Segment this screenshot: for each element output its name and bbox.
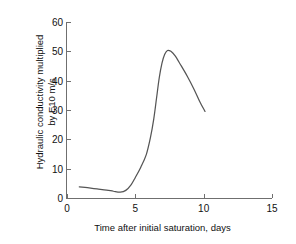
- chart-figure: Hydraulic conductivity multiplied by E10…: [0, 0, 296, 244]
- x-axis-line: [66, 198, 272, 199]
- plot-area: 0102030405060 051015: [67, 22, 272, 198]
- y-tick-label: 20: [52, 134, 63, 145]
- series-line-hydraulic-conductivity: [79, 50, 205, 192]
- y-tick-label: 30: [52, 105, 63, 116]
- y-axis-title: Hydraulic conductivity multiplied by E10…: [0, 0, 44, 205]
- x-tick-label: 5: [133, 203, 139, 214]
- x-tick-label: 0: [64, 203, 70, 214]
- y-axis-title-line1: Hydraulic conductivity multiplied: [34, 35, 45, 170]
- data-curve: [67, 22, 272, 198]
- y-tick-label: 10: [52, 163, 63, 174]
- x-tick-label: 10: [198, 203, 209, 214]
- y-tick-mark: [67, 198, 71, 199]
- y-tick-label: 0: [57, 193, 63, 204]
- y-tick-label: 50: [52, 46, 63, 57]
- x-tick-label: 15: [266, 203, 277, 214]
- x-tick-mark: [272, 194, 273, 198]
- x-axis-title: Time after initial saturation, days: [40, 222, 285, 233]
- y-tick-label: 60: [52, 17, 63, 28]
- y-tick-label: 40: [52, 75, 63, 86]
